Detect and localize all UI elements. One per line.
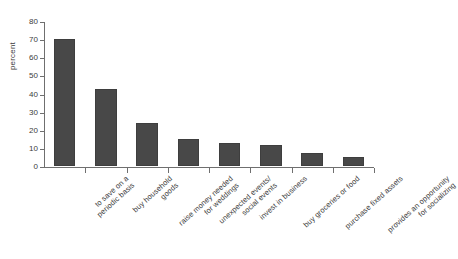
y-axis-tick-mark — [40, 131, 44, 132]
y-axis-tick-mark — [40, 40, 44, 41]
x-axis-category-label: buy householdgoods — [131, 174, 180, 221]
y-axis-tick-label: 80 — [29, 17, 38, 26]
bar — [178, 139, 199, 166]
x-axis-category-label: to save on aperiodic basis — [89, 174, 136, 219]
bar — [95, 89, 116, 166]
y-axis-tick-label: 60 — [29, 53, 38, 62]
x-axis-category-label-line: for socializing — [392, 181, 458, 241]
y-axis-tick-label: 70 — [29, 35, 38, 44]
x-axis-tick-mark — [127, 168, 128, 173]
y-axis-tick: 50 — [44, 76, 45, 77]
y-axis-tick-mark — [40, 22, 44, 23]
x-axis-tick-mark — [250, 168, 251, 173]
y-axis-tick: 70 — [44, 40, 45, 41]
x-axis-tick-mark — [85, 168, 86, 173]
page-bleed-text-bottom — [8, 247, 390, 257]
bar — [136, 123, 157, 167]
y-axis-tick: 80 — [44, 22, 45, 23]
y-axis-tick: 40 — [44, 95, 45, 96]
y-axis-title: percent — [8, 26, 17, 86]
y-axis-tick: 60 — [44, 58, 45, 59]
x-axis-tick-mark — [292, 168, 293, 173]
y-axis-tick-mark — [40, 149, 44, 150]
y-axis-tick: 30 — [44, 113, 45, 114]
y-axis-tick-mark — [40, 76, 44, 77]
y-axis-tick-mark — [40, 167, 44, 168]
y-axis-tick-label: 10 — [29, 144, 38, 153]
y-axis-tick-label: 30 — [29, 108, 38, 117]
bar — [54, 39, 75, 166]
bar — [343, 157, 364, 166]
y-axis-tick: 20 — [44, 131, 45, 132]
x-axis-tick-mark — [374, 168, 375, 173]
y-axis-tick: 0 — [44, 167, 45, 168]
y-axis-tick-label: 0 — [34, 162, 38, 171]
x-axis-tick-mark — [168, 168, 169, 173]
plot-area: 01020304050607080 — [44, 22, 374, 167]
bar — [301, 153, 322, 166]
y-axis-tick-mark — [40, 58, 44, 59]
bar — [219, 143, 240, 166]
y-axis-tick-label: 20 — [29, 126, 38, 135]
bar — [260, 145, 281, 166]
y-axis-tick-label: 50 — [29, 71, 38, 80]
y-axis-tick-mark — [40, 113, 44, 114]
x-axis-tick-mark — [209, 168, 210, 173]
x-axis-tick-mark — [333, 168, 334, 173]
page-bleed-text-top — [0, 0, 390, 7]
y-axis-tick-label: 40 — [29, 90, 38, 99]
y-axis-tick-mark — [40, 95, 44, 96]
y-axis-tick: 10 — [44, 149, 45, 150]
